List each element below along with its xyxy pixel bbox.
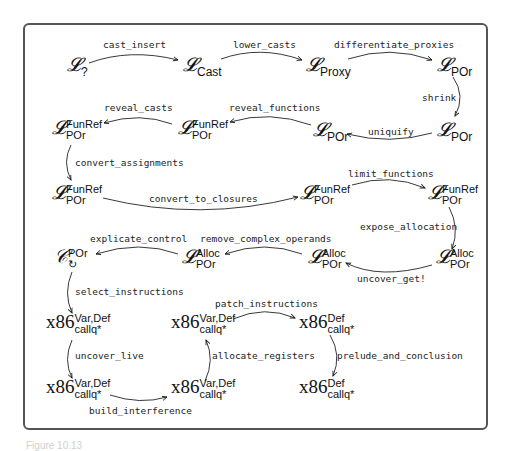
edge-select-instructions: [68, 272, 73, 313]
lang-node-x86-var-def-2: x86Var,Defcallq*: [171, 312, 235, 335]
lang-node-l-funref-por-4: 𝓛FunRefPOr: [300, 183, 350, 206]
label-build-interference: build_interference: [89, 405, 192, 416]
lang-node-x86-var-def-4: x86Var,Defcallq*: [171, 377, 235, 400]
label-reveal-functions: reveal_functions: [229, 102, 321, 113]
edge-explicate-control: [96, 247, 178, 254]
label-limit-functions: limit_functions: [348, 168, 434, 179]
label-uncover-live: uncover_live: [75, 350, 144, 361]
label-lower-casts: lower_casts: [233, 39, 296, 50]
edge-build-interference: [110, 395, 167, 401]
edge-reveal-casts: [104, 118, 172, 124]
lang-node-l-alloc-por-3: 𝓛AllocPOr: [436, 247, 474, 270]
figure-caption: Figure 10.13: [26, 440, 82, 451]
lang-node-x86-var-def-1: x86Var,Defcallq*: [46, 312, 110, 335]
edge-differentiate-proxies: [348, 52, 432, 60]
label-convert-to-closures: convert_to_closures: [149, 193, 258, 204]
lang-node-l-por-shrunk: 𝓛POr: [437, 120, 472, 139]
edge-lower-casts: [221, 52, 302, 60]
label-explicate-control: explicate_control: [90, 233, 187, 244]
edge-uncover-live: [68, 340, 73, 378]
lang-node-l-unknown: 𝓛?: [67, 55, 88, 74]
label-reveal-casts: reveal_casts: [104, 102, 173, 113]
lang-node-l-funref-por-3: 𝓛FunRefPOr: [52, 183, 102, 206]
lang-node-l-por: 𝓛POr: [437, 55, 472, 74]
edge-uncover-get: [346, 263, 432, 272]
edge-patch-instructions: [233, 312, 295, 319]
lang-node-l-cast: 𝓛Cast: [183, 55, 222, 74]
label-select-instructions: select_instructions: [75, 286, 184, 297]
label-uncover-get: uncover_get!: [357, 273, 426, 284]
lang-node-l-por-uniquified: 𝓛POr: [313, 120, 348, 139]
edge-reveal-functions: [230, 117, 311, 125]
label-convert-assignments: convert_assignments: [75, 157, 184, 168]
edge-cast-insert: [89, 55, 178, 63]
label-remove-complex-operands: remove_complex_operands: [200, 233, 332, 244]
lang-node-l-alloc-por-1: 𝓛AllocPOr: [182, 247, 220, 270]
label-expose-allocation: expose_allocation: [360, 221, 457, 232]
label-uniquify: uniquify: [368, 126, 414, 137]
lang-node-l-alloc-por-2: 𝓛AllocPOr: [308, 247, 346, 270]
label-shrink: shrink: [422, 92, 456, 103]
label-cast-insert: cast_insert: [103, 39, 166, 50]
lang-node-l-funref-por-2: 𝓛FunRefPOr: [178, 118, 228, 141]
lang-node-x86-def-2: x86Defcallq*: [299, 377, 354, 400]
lang-node-l-proxy: 𝓛Proxy: [306, 55, 351, 74]
lang-node-l-funref-por-5: 𝓛FunRefPOr: [428, 183, 478, 206]
label-allocate-registers: allocate_registers: [212, 350, 315, 361]
label-prelude-and-conclusion: prelude_and_conclusion: [337, 350, 463, 361]
lang-node-l-funref-por-1: 𝓛FunRefPOr: [52, 118, 102, 141]
edge-convert-assignments: [67, 145, 72, 180]
lang-node-c-por: 𝒞POr↻: [54, 247, 88, 270]
edge-remove-complex-operands: [225, 247, 302, 254]
edge-prelude-and-conclusion: [330, 335, 337, 376]
edge-allocate-registers: [205, 340, 210, 381]
label-differentiate-proxies: differentiate_proxies: [334, 39, 454, 50]
edge-limit-functions: [352, 180, 425, 188]
label-patch-instructions: patch_instructions: [215, 298, 318, 309]
lang-node-x86-def-1: x86Defcallq*: [299, 312, 354, 335]
lang-node-x86-var-def-3: x86Var,Defcallq*: [46, 377, 110, 400]
